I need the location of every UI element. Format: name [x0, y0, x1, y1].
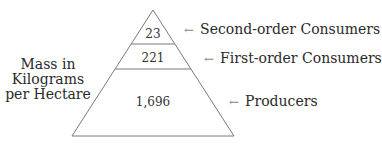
left-arrow-icon: ←	[229, 95, 239, 109]
value-first-order: 221	[123, 51, 183, 65]
axis-label-line-1: Mass in	[4, 57, 92, 72]
level-name: First-order Consumers	[220, 50, 382, 66]
left-arrow-icon: ←	[204, 52, 214, 66]
level-name: Second-order Consumers	[200, 21, 380, 37]
axis-label-line-3: per Hectare	[4, 87, 92, 102]
label-first-order: ←First-order Consumers	[204, 50, 382, 66]
value-second-order: 23	[123, 27, 183, 41]
axis-label-line-2: Kilograms	[4, 72, 92, 87]
y-axis-label: Mass in Kilograms per Hectare	[4, 57, 92, 102]
level-name: Producers	[245, 93, 318, 109]
left-arrow-icon: ←	[184, 23, 194, 37]
value-producers: 1,696	[123, 95, 183, 109]
label-second-order: ←Second-order Consumers	[184, 21, 380, 37]
label-producers: ←Producers	[229, 93, 318, 109]
